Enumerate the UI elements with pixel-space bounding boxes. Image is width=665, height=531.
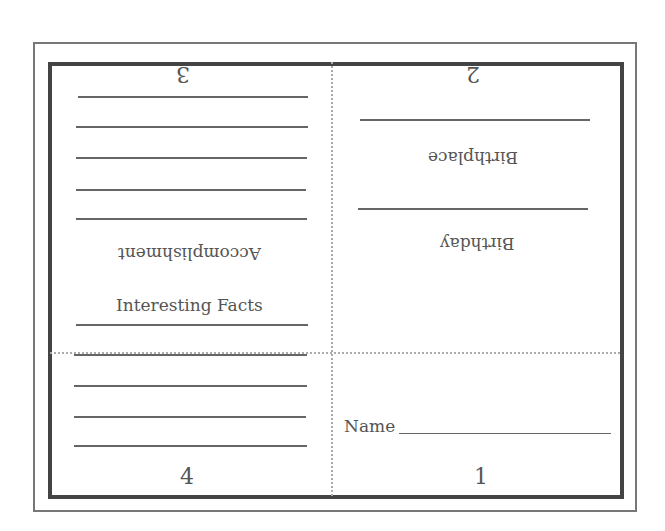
writing-line [76, 218, 307, 220]
accomplishment-label: Accomplishment [118, 244, 261, 264]
birthplace-label: Birthplace [428, 148, 518, 168]
writing-line [76, 126, 308, 128]
writing-line [74, 354, 307, 356]
page-number-4: 4 [180, 464, 194, 489]
writing-line [76, 157, 307, 159]
writing-line [360, 119, 590, 121]
page-number-1: 1 [474, 464, 488, 489]
writing-line [74, 445, 307, 447]
writing-line [74, 385, 307, 387]
page-number-3: 3 [176, 62, 190, 87]
name-label: Name [344, 416, 395, 436]
name-field-line[interactable] [399, 433, 611, 434]
writing-line [76, 324, 308, 326]
writing-line [76, 189, 306, 191]
birthday-label: Birthday [440, 234, 514, 254]
interesting-facts-label: Interesting Facts [116, 295, 263, 315]
writing-line [74, 416, 306, 418]
writing-line [358, 208, 588, 210]
page-number-2: 2 [466, 62, 480, 87]
writing-line [78, 96, 308, 98]
vertical-fold-line [331, 62, 333, 496]
